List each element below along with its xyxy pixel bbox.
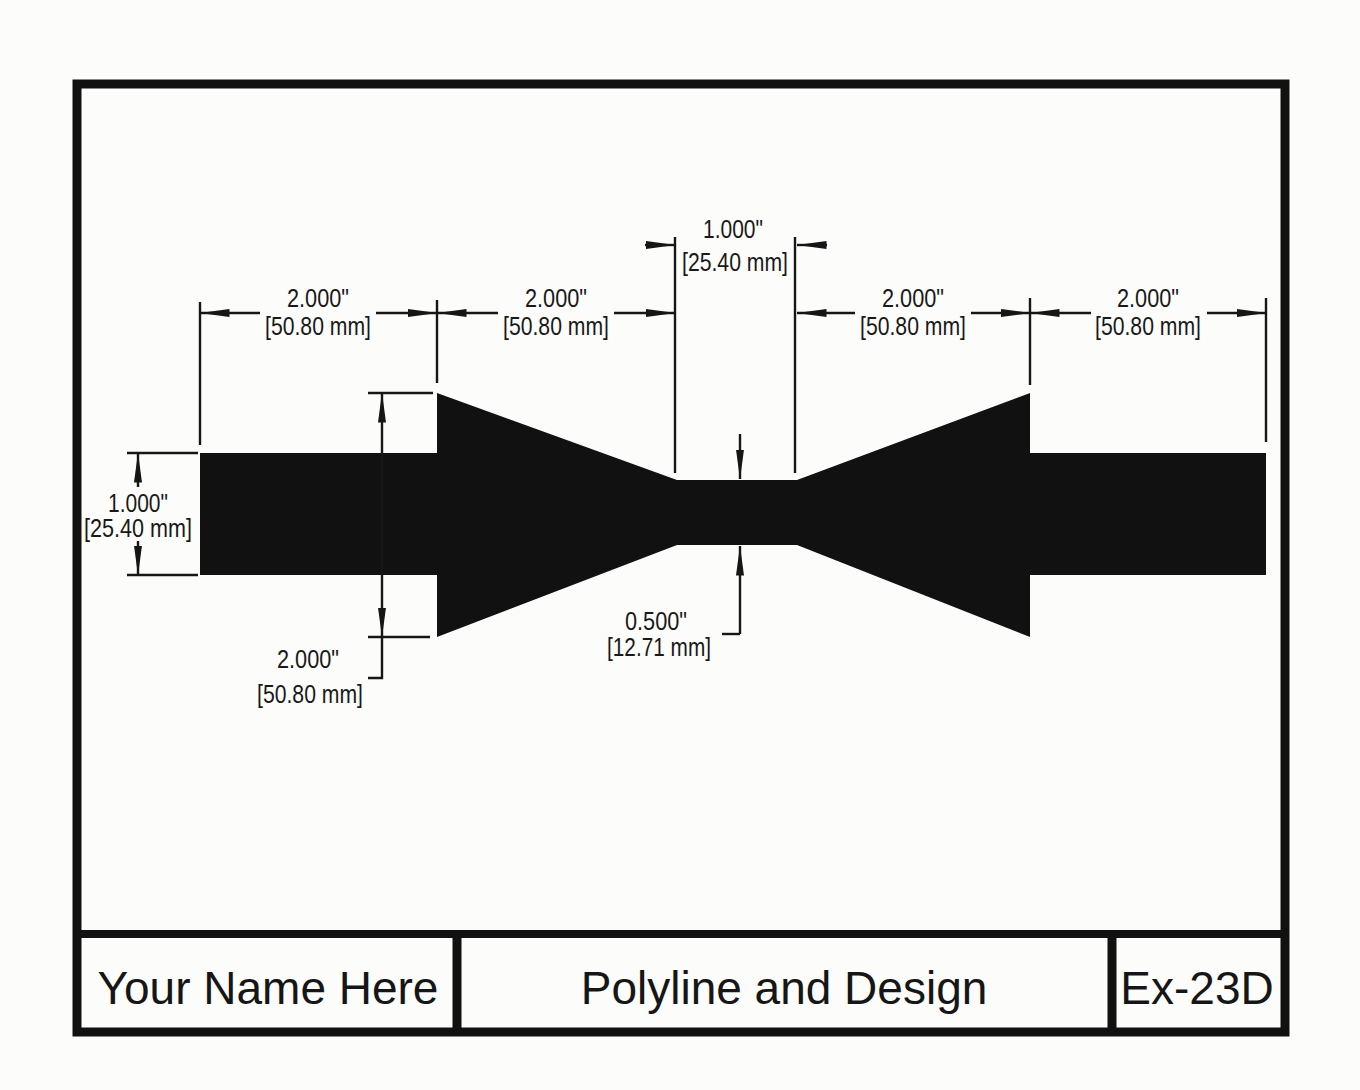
dim-width-mid-right-inches: 2.000" — [882, 284, 944, 312]
title-block-title-text: Polyline and Design — [581, 962, 988, 1014]
title-block: Your Name Here Polyline and Design Ex-23… — [77, 934, 1285, 1030]
dim-width-neck-metric: [25.40 mm] — [682, 248, 788, 276]
dim-width-far-left-inches: 2.000" — [287, 284, 349, 312]
scanned-drawing-page: 2.000" [50.80 mm] 2.000" [50.80 mm] 1.00… — [0, 0, 1360, 1090]
dim-width-mid-left-metric: [50.80 mm] — [503, 312, 609, 340]
dim-height-bar-inches: 1.000" — [108, 489, 168, 517]
dim-height-neck-metric: [12.71 mm] — [607, 633, 711, 661]
dim-height-flare-inches: 2.000" — [277, 645, 339, 673]
leader-line — [368, 637, 382, 678]
title-block-exercise-text: Ex-23D — [1120, 962, 1273, 1014]
dim-width-mid-left-inches: 2.000" — [525, 284, 587, 312]
dim-width-mid-right-metric: [50.80 mm] — [860, 312, 966, 340]
dim-height-neck-inches: 0.500" — [625, 607, 687, 635]
bowtie-part-outline — [200, 393, 1266, 637]
dim-width-far-right-metric: [50.80 mm] — [1095, 312, 1201, 340]
dim-height-bar-metric: [25.40 mm] — [84, 514, 192, 542]
dim-width-neck-inches: 1.000" — [703, 215, 763, 243]
dim-width-far-left-metric: [50.80 mm] — [265, 312, 371, 340]
dim-width-far-right-inches: 2.000" — [1117, 284, 1179, 312]
title-block-name-text: Your Name Here — [98, 962, 439, 1014]
dim-height-flare-metric: [50.80 mm] — [257, 680, 363, 708]
technical-drawing-canvas: 2.000" [50.80 mm] 2.000" [50.80 mm] 1.00… — [0, 0, 1360, 1090]
